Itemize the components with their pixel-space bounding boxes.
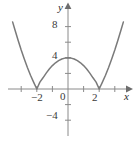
origin-label: 0: [60, 91, 66, 102]
y-tick-label-4: 4: [52, 50, 58, 61]
graph-figure: y x 8 4 −4 −2 0 2: [0, 0, 136, 142]
x-tick-label-2: 2: [92, 92, 98, 103]
y-tick-label-minus-4: −4: [46, 110, 58, 121]
x-tick-label-minus-2: −2: [31, 92, 43, 103]
y-tick-label-8: 8: [52, 19, 58, 30]
y-axis-arrowhead: [65, 3, 72, 10]
x-axis-label: x: [124, 91, 129, 102]
plot-area: [0, 0, 136, 142]
y-axis-label: y: [58, 2, 63, 13]
